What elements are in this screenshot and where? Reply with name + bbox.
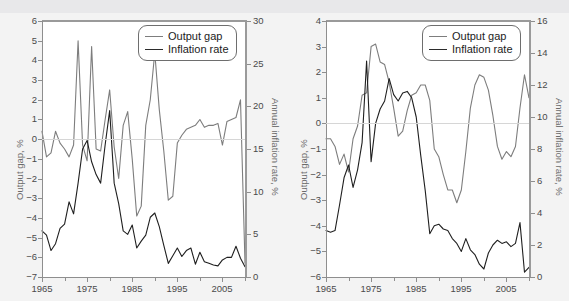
y2-axis-tick — [247, 277, 251, 278]
y-axis-tick — [322, 123, 326, 124]
y-axis-tick-label: −6 — [296, 272, 321, 281]
y-axis-tick-label: −4 — [12, 213, 37, 222]
y2-axis-tick-label: 30 — [253, 16, 279, 25]
plot-frame-top — [42, 20, 247, 22]
y2-axis-tick — [531, 181, 535, 182]
legend-entry-inflation-rate: Inflation rate — [145, 43, 229, 56]
plot-frame-bottom-axis — [326, 277, 531, 278]
figure-sheet: Output gap, % Annual inflation rate, % O… — [0, 13, 569, 301]
y2-axis-tick-label: 12 — [537, 80, 563, 89]
y-axis-tick-label: 5 — [12, 36, 37, 45]
y-axis-tick-label: 1 — [12, 114, 37, 123]
plot-frame-top — [326, 20, 531, 22]
y-axis-tick — [38, 21, 42, 22]
y-axis-tick-label: 4 — [12, 55, 37, 64]
y-axis-tick — [38, 139, 42, 140]
y-axis-tick-label: −6 — [12, 252, 37, 261]
y2-axis-tick-label: 4 — [537, 208, 563, 217]
y2-axis-tick — [247, 234, 251, 235]
legend-entry-output-gap: Output gap — [145, 30, 229, 43]
y2-axis-tick — [247, 149, 251, 150]
cropped-header-strip — [0, 0, 569, 14]
legend-entry-inflation-rate: Inflation rate — [429, 43, 513, 56]
x-axis-tick-label: 1995 — [155, 284, 199, 293]
y2-axis-tick-label: 6 — [537, 176, 563, 185]
y-axis-tick — [38, 179, 42, 180]
y2-axis-tick — [247, 21, 251, 22]
y2-axis-tick-label: 0 — [253, 272, 279, 281]
x-axis-minor-tick — [200, 278, 201, 281]
x-axis-minor-tick — [155, 278, 156, 281]
y2-axis-tick — [531, 53, 535, 54]
x-axis-minor-tick — [394, 278, 395, 281]
y-axis-tick — [38, 159, 42, 160]
y-axis-tick-label: 6 — [12, 16, 37, 25]
y2-axis-tick — [531, 245, 535, 246]
y-axis-tick — [322, 251, 326, 252]
y-axis-tick — [38, 100, 42, 101]
legend-label-inflation-rate: Inflation rate — [452, 43, 513, 56]
y2-axis-tick-label: 0 — [537, 272, 563, 281]
y2-axis-tick — [247, 64, 251, 65]
y-axis-tick-label: −7 — [12, 272, 37, 281]
y-axis-tick — [38, 60, 42, 61]
y-axis-tick-label: −2 — [12, 174, 37, 183]
inflation-rate-line-left — [42, 111, 245, 267]
y-axis-tick-label: 3 — [296, 42, 321, 51]
y-axis-tick — [322, 47, 326, 48]
y2-axis-tick-label: 10 — [537, 112, 563, 121]
y-axis-tick — [38, 80, 42, 81]
x-axis-tick — [87, 278, 88, 282]
x-axis-tick-label: 1975 — [349, 284, 393, 293]
x-axis-minor-tick — [65, 278, 66, 281]
x-axis-tick — [177, 278, 178, 282]
x-axis-tick — [506, 278, 507, 282]
y-axis-tick — [38, 257, 42, 258]
x-axis-tick-label: 1985 — [394, 284, 438, 293]
x-axis-tick-label: 1965 — [304, 284, 348, 293]
x-axis-tick — [416, 278, 417, 282]
y-axis-tick — [322, 175, 326, 176]
legend-label-output-gap: Output gap — [168, 30, 222, 43]
y2-axis-tick-label: 20 — [253, 101, 279, 110]
y2-axis-tick-label: 15 — [253, 144, 279, 153]
y-axis-tick — [322, 98, 326, 99]
y2-axis-tick — [531, 21, 535, 22]
legend-swatch-output-gap-icon — [145, 36, 163, 37]
x-axis-tick-label: 2005 — [484, 284, 528, 293]
y-axis-tick-label: 2 — [12, 95, 37, 104]
x-axis-tick-label: 1975 — [65, 284, 109, 293]
legend-swatch-output-gap-icon — [429, 36, 447, 37]
y-axis-tick — [322, 200, 326, 201]
legend-right: Output gap Inflation rate — [422, 25, 521, 61]
x-axis-tick — [132, 278, 133, 282]
x-axis-tick — [461, 278, 462, 282]
y-axis-tick-label: −3 — [12, 193, 37, 202]
y-axis-tick-label: −5 — [12, 233, 37, 242]
y-axis-tick-label: −5 — [296, 246, 321, 255]
legend-swatch-inflation-rate-icon — [429, 49, 447, 50]
x-axis-tick — [371, 278, 372, 282]
chart-panel-left: Output gap, % Annual inflation rate, % O… — [0, 13, 285, 301]
legend-left: Output gap Inflation rate — [138, 25, 237, 61]
y-axis-tick — [322, 21, 326, 22]
y-axis-tick-label: −3 — [296, 195, 321, 204]
x-axis-tick-label: 1995 — [439, 284, 483, 293]
y-axis-tick-label: 1 — [296, 93, 321, 102]
y2-axis-tick — [531, 117, 535, 118]
y2-axis-tick — [247, 192, 251, 193]
y-axis-tick-label: 0 — [296, 118, 321, 127]
x-axis-tick — [42, 278, 43, 282]
y-axis-tick-label: 3 — [12, 75, 37, 84]
x-axis-tick-label: 1985 — [110, 284, 154, 293]
x-axis-minor-tick — [439, 278, 440, 281]
output-gap-line-left — [42, 41, 245, 264]
zero-reference-line — [326, 123, 529, 124]
zero-reference-line — [42, 139, 245, 140]
y-axis-tick-label: 4 — [296, 16, 321, 25]
x-axis-minor-tick — [110, 278, 111, 281]
legend-label-output-gap: Output gap — [452, 30, 506, 43]
y-axis-tick — [322, 72, 326, 73]
y-axis-tick — [322, 226, 326, 227]
y-axis-tick-label: −4 — [296, 221, 321, 230]
